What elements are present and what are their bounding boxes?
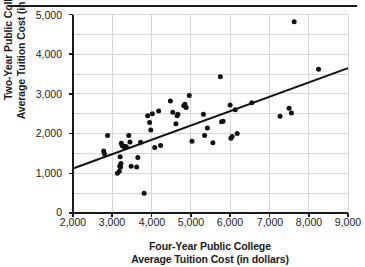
data-point (233, 107, 238, 112)
data-point (147, 120, 152, 125)
data-point (134, 164, 139, 169)
data-point (202, 133, 207, 138)
data-point (138, 140, 143, 145)
data-point (102, 151, 107, 156)
data-point (118, 154, 123, 159)
data-point (316, 67, 321, 72)
data-point (168, 99, 173, 104)
data-point (190, 139, 195, 144)
axis-ticks-group (69, 15, 348, 218)
data-point (292, 19, 297, 24)
data-point (152, 145, 157, 150)
data-point (135, 155, 140, 160)
data-point (142, 191, 147, 196)
data-point (148, 128, 153, 133)
data-point (221, 119, 226, 124)
plot-canvas (0, 0, 365, 267)
data-point (170, 110, 175, 115)
data-point (287, 106, 292, 111)
data-point (218, 74, 223, 79)
data-points-group (101, 19, 321, 196)
data-point (129, 164, 134, 169)
data-point (145, 113, 150, 118)
data-point (156, 108, 161, 113)
data-point (235, 131, 240, 136)
data-point (184, 105, 189, 110)
data-point (230, 134, 235, 139)
data-point (205, 126, 210, 131)
data-point (210, 140, 215, 145)
gridlines-group (73, 15, 348, 214)
data-point (124, 145, 129, 150)
data-point (118, 161, 123, 166)
data-point (187, 93, 192, 98)
data-point (228, 103, 233, 108)
data-point (173, 121, 178, 126)
data-point (175, 112, 180, 117)
data-point (117, 169, 122, 174)
data-point (150, 111, 155, 116)
data-point (249, 100, 254, 105)
data-point (278, 114, 283, 119)
data-point (201, 112, 206, 117)
scatter-plot-figure: Two-Year Public College Average Tuition … (0, 0, 365, 267)
data-point (105, 133, 110, 138)
data-point (127, 139, 132, 144)
data-point (126, 133, 131, 138)
data-point (289, 110, 294, 115)
data-point (158, 143, 163, 148)
